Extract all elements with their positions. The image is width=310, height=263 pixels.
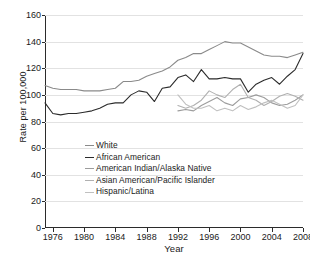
y-tick-label: 80 — [31, 117, 41, 126]
x-tick-label: 1984 — [105, 233, 125, 242]
y-tick-label: 40 — [31, 170, 41, 179]
series-line — [45, 42, 303, 91]
legend-item-label: Hispanic/Latina — [96, 186, 154, 198]
y-tick-label: 140 — [26, 37, 41, 46]
x-tick-label: 2000 — [230, 233, 250, 242]
x-tick-label: 2008 — [293, 233, 310, 242]
line-chart: Rate per 100,000 020406080100120140160 1… — [0, 0, 310, 263]
legend-swatch-icon — [85, 157, 94, 158]
legend-item[interactable]: Hispanic/Latina — [85, 186, 215, 198]
legend-swatch-icon — [85, 192, 94, 193]
legend-item[interactable]: Asian American/Pacific Islander — [85, 175, 215, 187]
legend: WhiteAfrican AmericanAmerican Indian/Ala… — [85, 140, 215, 198]
legend-swatch-icon — [85, 168, 94, 169]
legend-swatch-icon — [85, 145, 94, 146]
y-tick-label: 160 — [26, 11, 41, 20]
x-tick-label: 2004 — [262, 233, 282, 242]
y-tick-label: 100 — [26, 90, 41, 99]
legend-swatch-icon — [85, 180, 94, 181]
x-axis-title: Year — [45, 243, 303, 254]
y-tick-mark — [42, 228, 45, 229]
y-tick-label: 120 — [26, 64, 41, 73]
x-tick-label: 1988 — [137, 233, 157, 242]
x-tick-label: 1980 — [74, 233, 94, 242]
y-tick-label: 60 — [31, 144, 41, 153]
legend-item[interactable]: American Indian/Alaska Native — [85, 163, 215, 175]
legend-item[interactable]: African American — [85, 152, 215, 164]
x-tick-label: 1976 — [43, 233, 63, 242]
legend-item-label: White — [96, 140, 118, 152]
y-tick-label: 0 — [36, 224, 41, 233]
y-axis-title: Rate per 100,000 — [18, 32, 28, 182]
y-tick-label: 20 — [31, 197, 41, 206]
legend-item-label: Asian American/Pacific Islander — [96, 175, 215, 187]
legend-item[interactable]: White — [85, 140, 215, 152]
x-tick-label: 1996 — [199, 233, 219, 242]
x-tick-label: 1992 — [168, 233, 188, 242]
legend-item-label: American Indian/Alaska Native — [96, 163, 212, 175]
legend-item-label: African American — [96, 152, 160, 164]
